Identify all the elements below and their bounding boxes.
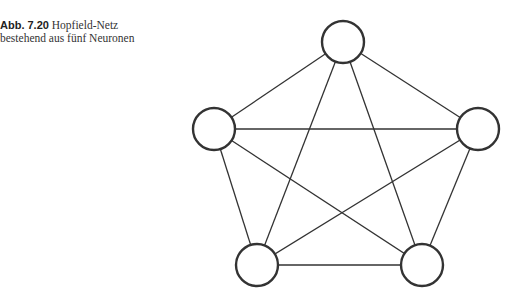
edge-left-bottom-right bbox=[214, 129, 422, 265]
edge-top-bottom-right bbox=[343, 42, 422, 265]
neuron-left bbox=[193, 108, 235, 150]
edge-top-right bbox=[343, 42, 478, 129]
edge-right-bottom-left bbox=[257, 129, 478, 265]
neurons bbox=[193, 21, 499, 286]
edge-top-left bbox=[214, 42, 343, 129]
edges bbox=[214, 42, 478, 265]
edge-top-bottom-left bbox=[257, 42, 343, 265]
hopfield-network-diagram bbox=[0, 0, 525, 305]
neuron-top bbox=[322, 21, 364, 63]
neuron-right bbox=[457, 108, 499, 150]
neuron-bottom-right bbox=[401, 244, 443, 286]
neuron-bottom-left bbox=[236, 244, 278, 286]
